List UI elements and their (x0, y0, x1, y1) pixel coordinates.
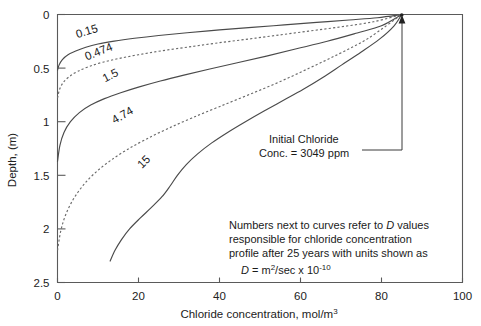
x-tick-label: 40 (213, 290, 226, 302)
note-line-1: Numbers next to curves refer to D values (229, 219, 429, 231)
y-tick-label: 1.5 (34, 170, 50, 182)
chloride-depth-profile-chart: 020406080100 00.511.522.5 0.150.4741.54.… (0, 0, 481, 326)
y-tick-label: 2 (43, 223, 49, 235)
y-axis-ticks (58, 15, 66, 283)
curve-1-5 (58, 15, 402, 162)
curve-label-0-15: 0.15 (74, 22, 99, 40)
curve-label-15: 15 (135, 153, 153, 171)
x-tick-label: 0 (54, 290, 60, 302)
initial-chloride-line-2: Conc. = 3049 ppm (259, 147, 349, 159)
note-line-3: profile after 25 years with units shown … (229, 247, 428, 259)
x-tick-label: 80 (375, 290, 388, 302)
curve-0-474 (58, 15, 402, 99)
y-tick-label: 0 (43, 9, 49, 21)
y-axis-tick-labels: 00.511.522.5 (34, 9, 50, 289)
y-tick-label: 0.5 (34, 63, 50, 75)
x-tick-label: 20 (132, 290, 145, 302)
x-tick-label: 100 (453, 290, 472, 302)
y-axis-label: Depth, (m) (6, 133, 18, 187)
y-tick-label: 2.5 (34, 277, 50, 289)
x-axis-label: Chloride concentration, mol/m3 (180, 307, 338, 320)
x-axis-ticks (58, 278, 463, 283)
curve-label-1-5: 1.5 (101, 66, 121, 84)
initial-chloride-text-block: Initial Chloride Conc. = 3049 ppm (259, 133, 349, 159)
note-text-block: Numbers next to curves refer to D values… (229, 219, 429, 276)
y-tick-label: 1 (43, 116, 49, 128)
curve-value-labels: 0.150.4741.54.7415 (74, 22, 152, 170)
curve-label-4-74: 4.74 (110, 104, 136, 126)
x-tick-label: 60 (294, 290, 307, 302)
x-axis-tick-labels: 020406080100 (54, 290, 472, 302)
chart-figure: 020406080100 00.511.522.5 0.150.4741.54.… (0, 0, 481, 326)
initial-chloride-line-1: Initial Chloride (269, 133, 339, 145)
note-line-2: responsible for chloride concentration (229, 233, 412, 245)
note-formula: D = m2/sec x 10-10 (241, 263, 331, 276)
